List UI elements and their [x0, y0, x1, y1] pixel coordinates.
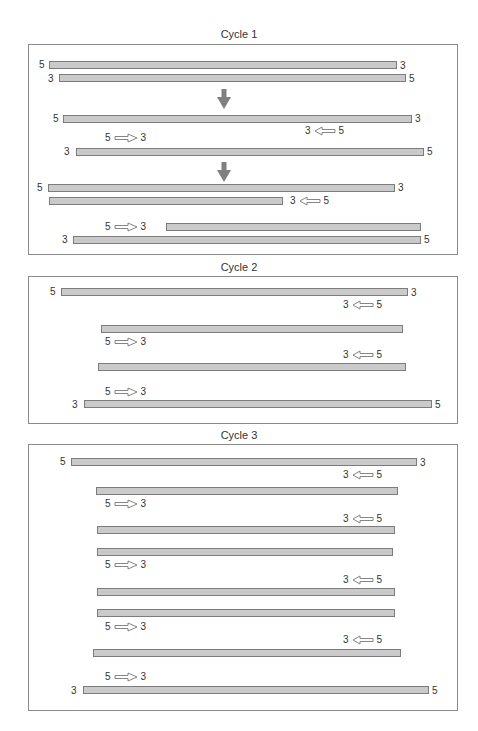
down-arrow-icon: [217, 162, 231, 182]
down-arrow-icon: [217, 89, 231, 109]
primer-three-label: 3: [141, 222, 147, 232]
three-prime-end-label: 3: [48, 74, 54, 84]
left-arrow-icon: [352, 350, 374, 360]
three-prime-end-label: 3: [415, 114, 421, 124]
reverse-primer: 3 5: [290, 196, 329, 206]
reverse-primer: 3 5: [343, 300, 382, 310]
primer-five-label: 5: [105, 133, 111, 143]
three-prime-end-label: 3: [64, 147, 70, 157]
forward-primer: 5 3: [105, 560, 146, 570]
primer-three-label: 3: [290, 196, 296, 206]
primer-five-label: 5: [377, 514, 383, 524]
extended-strand: [98, 363, 406, 371]
primer-three-label: 3: [141, 133, 147, 143]
forward-primer: 5 3: [105, 499, 146, 509]
template-strand-bottom: [83, 686, 429, 694]
primer-three-label: 3: [343, 300, 349, 310]
left-arrow-icon: [352, 300, 374, 310]
primer-five-label: 5: [105, 622, 111, 632]
right-arrow-icon: [114, 622, 138, 632]
left-arrow-icon: [352, 635, 374, 645]
extended-strand: [93, 649, 401, 657]
primer-three-label: 3: [141, 672, 147, 682]
template-strand-bottom: [59, 74, 406, 82]
cycle-1-title: Cycle 1: [0, 28, 478, 40]
template-strand-top: [61, 288, 408, 296]
reverse-primer: 3 5: [343, 514, 382, 524]
denatured-strand-bottom: [76, 148, 424, 156]
primer-five-label: 5: [324, 196, 330, 206]
cycle-3-panel: [28, 444, 458, 711]
forward-primer: 5 3: [105, 672, 146, 682]
primer-three-label: 3: [141, 499, 147, 509]
primer-three-label: 3: [343, 350, 349, 360]
right-arrow-icon: [114, 222, 138, 232]
reverse-primer: 3 5: [343, 635, 382, 645]
right-arrow-icon: [114, 560, 138, 570]
template-strand-bottom: [73, 236, 421, 244]
primer-three-label: 3: [141, 622, 147, 632]
cycle-3-title: Cycle 3: [0, 429, 478, 441]
three-prime-end-label: 3: [400, 61, 406, 71]
template-strand-bottom: [84, 400, 432, 408]
three-prime-end-label: 3: [62, 235, 68, 245]
five-prime-end-label: 5: [409, 74, 415, 84]
forward-primer: 5 3: [105, 133, 146, 143]
primer-five-label: 5: [339, 126, 345, 136]
extended-strand: [97, 526, 395, 534]
reverse-primer: 3 5: [343, 350, 382, 360]
primer-three-label: 3: [141, 337, 147, 347]
five-prime-end-label: 5: [424, 235, 430, 245]
forward-primer: 5 3: [105, 222, 146, 232]
extended-strand-short: [49, 197, 283, 205]
primer-three-label: 3: [141, 387, 147, 397]
right-arrow-icon: [114, 337, 138, 347]
primer-five-label: 5: [105, 387, 111, 397]
five-prime-end-label: 5: [50, 287, 56, 297]
primer-five-label: 5: [105, 560, 111, 570]
reverse-primer: 3 5: [305, 126, 344, 136]
primer-three-label: 3: [305, 126, 311, 136]
three-prime-end-label: 3: [411, 288, 417, 298]
five-prime-end-label: 5: [37, 183, 43, 193]
left-arrow-icon: [299, 196, 321, 206]
three-prime-end-label: 3: [398, 183, 404, 193]
template-strand-top: [71, 458, 417, 466]
primer-five-label: 5: [105, 222, 111, 232]
extended-strand-short: [166, 223, 421, 231]
primer-five-label: 5: [105, 337, 111, 347]
five-prime-end-label: 5: [39, 60, 45, 70]
five-prime-end-label: 5: [53, 114, 59, 124]
left-arrow-icon: [352, 514, 374, 524]
primer-three-label: 3: [343, 514, 349, 524]
primer-five-label: 5: [377, 635, 383, 645]
right-arrow-icon: [114, 387, 138, 397]
primer-five-label: 5: [105, 499, 111, 509]
three-prime-end-label: 3: [71, 686, 77, 696]
template-strand-top: [48, 184, 395, 192]
left-arrow-icon: [314, 126, 336, 136]
five-prime-end-label: 5: [60, 457, 66, 467]
extended-strand: [97, 548, 393, 556]
reverse-primer: 3 5: [343, 470, 382, 480]
left-arrow-icon: [352, 575, 374, 585]
forward-primer: 5 3: [105, 622, 146, 632]
right-arrow-icon: [114, 133, 138, 143]
primer-five-label: 5: [105, 672, 111, 682]
three-prime-end-label: 3: [420, 458, 426, 468]
five-prime-end-label: 5: [427, 147, 433, 157]
primer-five-label: 5: [377, 300, 383, 310]
cycle-2-title: Cycle 2: [0, 261, 478, 273]
left-arrow-icon: [352, 470, 374, 480]
extended-strand: [97, 588, 395, 596]
primer-three-label: 3: [141, 560, 147, 570]
denatured-strand-top: [63, 115, 412, 123]
extended-strand: [101, 325, 403, 333]
primer-five-label: 5: [377, 350, 383, 360]
forward-primer: 5 3: [105, 337, 146, 347]
reverse-primer: 3 5: [343, 575, 382, 585]
right-arrow-icon: [114, 672, 138, 682]
primer-three-label: 3: [343, 635, 349, 645]
three-prime-end-label: 3: [72, 400, 78, 410]
primer-three-label: 3: [343, 575, 349, 585]
